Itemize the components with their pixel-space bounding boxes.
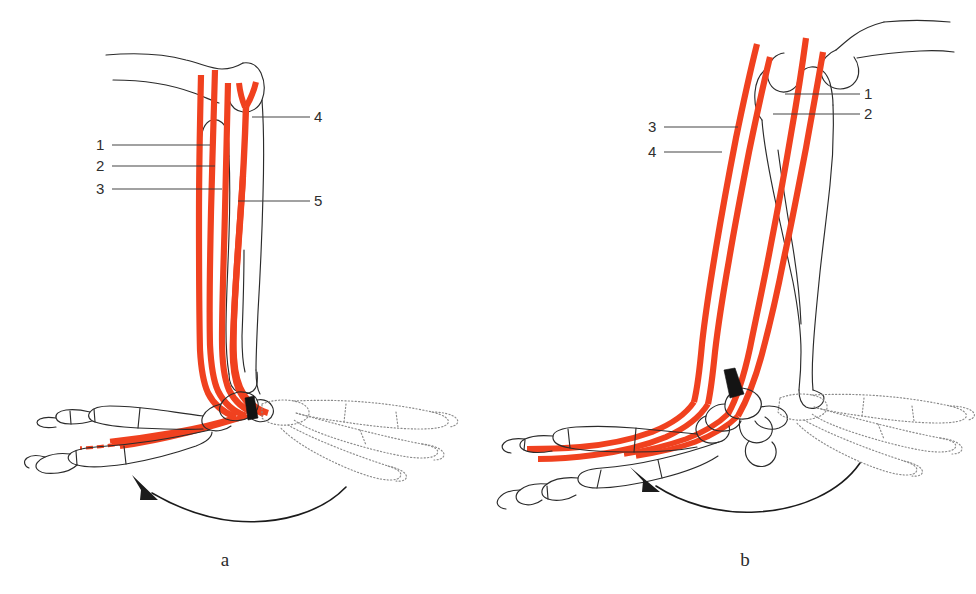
ghost-metatarsals-mid-b (812, 407, 956, 452)
label-a-3: 3 (96, 180, 104, 197)
ghost-joint-b-2 (912, 406, 914, 421)
joint-line-a-4 (76, 451, 77, 465)
tarsal-extra-b (745, 441, 776, 467)
ghost-phalanges-upper-a (432, 412, 458, 427)
knee-condyle-b (821, 50, 859, 89)
panel-caption-b: b (740, 549, 750, 570)
ghost-joint-a-2 (396, 412, 398, 427)
tendon-2-b (738, 52, 823, 416)
femur-upper-outline-a (106, 54, 243, 69)
joint-line-a-2 (94, 409, 95, 422)
joint-line-b-3 (658, 460, 662, 478)
femur-lower-outline-b (857, 51, 954, 58)
tibia-lateral-border-b (812, 105, 833, 390)
tibia-lateral-border-a (256, 100, 264, 370)
metatarsals-upper-a (89, 406, 203, 429)
ghost-joint-a-1 (344, 404, 346, 422)
phalanx-tip-lower-a (25, 456, 45, 468)
joint-line-b-5 (547, 486, 548, 499)
ghost-joint-b-3 (878, 424, 884, 439)
anatomy-figure-svg: 1 2 3 4 5 a (0, 0, 976, 594)
panel-caption-a: a (221, 549, 230, 570)
ghost-tarsus-a (262, 400, 309, 425)
panel-a-foot-ghost (262, 400, 458, 481)
motion-arc-a (152, 487, 346, 522)
joint-line-b-6 (524, 440, 525, 450)
panel-b-foot-ghost (778, 394, 974, 476)
ghost-metatarsals-upper-b (812, 394, 966, 423)
joint-line-a-3 (124, 446, 126, 464)
femur-upper-outline-b (836, 22, 884, 50)
phalanx-tip-upper-a (37, 417, 56, 427)
tendon-4-medial-limb-a (239, 83, 245, 107)
label-a-4: 4 (314, 108, 322, 125)
motion-arrowhead-a (132, 475, 158, 500)
joint-line-b-4 (597, 470, 601, 488)
joint-line-a-1 (138, 408, 140, 428)
label-a-5: 5 (314, 192, 322, 209)
panel-b: 1 2 3 4 b (497, 21, 974, 571)
ghost-metatarsals-mid-a (294, 413, 438, 458)
ghost-metatarsals-lower-a (280, 425, 401, 480)
panel-b-leg-bones (755, 21, 954, 409)
tendon-4-lateral-limb-a (246, 82, 256, 107)
label-b-3: 3 (648, 118, 656, 135)
label-b-2: 2 (864, 105, 872, 122)
femur-upper-right-b (884, 21, 950, 23)
label-a-1: 1 (96, 136, 104, 153)
ghost-phalanges-upper-b (950, 406, 974, 420)
ghost-joint-b-1 (862, 398, 864, 416)
ghost-metatarsals-upper-a (294, 400, 448, 429)
fibula-distal-a (242, 250, 245, 372)
ghost-joint-a-3 (360, 430, 366, 445)
label-b-4: 4 (648, 143, 656, 160)
label-a-2: 2 (96, 157, 104, 174)
panel-a: 1 2 3 4 5 a (25, 54, 458, 570)
joint-line-a-5 (70, 411, 71, 424)
label-b-1: 1 (864, 85, 872, 102)
navicular-b (739, 417, 772, 443)
distal-tibia-b (799, 390, 824, 408)
ghost-tarsus-b (778, 394, 827, 420)
distal-tibia-lateral-a (256, 370, 260, 394)
figure-root: 1 2 3 4 5 a (0, 0, 976, 594)
phalanges-upper-a (56, 410, 92, 424)
panel-b-tendons (527, 38, 823, 459)
